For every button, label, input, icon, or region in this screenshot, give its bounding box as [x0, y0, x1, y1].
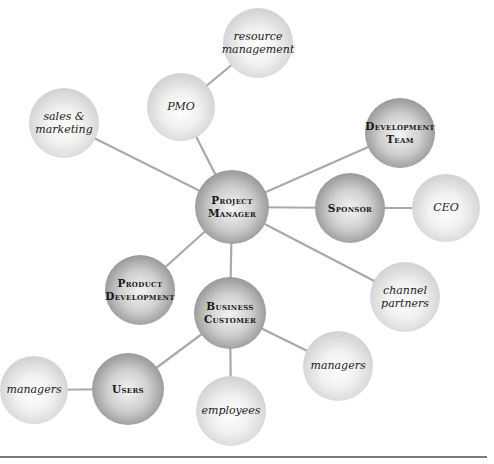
node-label: DevelopmentTeam	[365, 120, 434, 145]
node-label-line: marketing	[35, 123, 93, 136]
node-label-line: Business	[204, 300, 256, 313]
node-label: ProductDevelopment	[105, 277, 174, 302]
node-label-line: managers	[6, 383, 61, 396]
node-label: managers	[6, 383, 61, 396]
node-label-line: channel	[381, 284, 429, 297]
node-label: Sponsor	[328, 202, 372, 215]
bottom-divider	[0, 456, 487, 458]
stakeholder-diagram: ProjectManagerDevelopmentTeamSponsorCEOr…	[0, 0, 494, 464]
node-label-line: Manager	[208, 207, 256, 220]
node-label: ProjectManager	[208, 194, 256, 219]
node-label: resourcemanagement	[222, 30, 295, 56]
node-label: BusinessCustomer	[204, 300, 256, 325]
node-channel-partners: channelpartners	[370, 262, 440, 332]
node-label-line: Customer	[204, 313, 256, 326]
node-label: sales &marketing	[35, 110, 93, 136]
node-product-development: ProductDevelopment	[105, 255, 175, 325]
node-managers-left: managers	[0, 356, 68, 424]
node-label-line: resource	[222, 30, 295, 43]
node-label-line: managers	[310, 359, 365, 372]
node-label: CEO	[433, 201, 458, 214]
node-label-line: Development	[105, 290, 174, 303]
node-employees: employees	[196, 376, 266, 446]
node-label-line: Product	[105, 277, 174, 290]
node-users: Users	[92, 353, 164, 425]
node-label: channelpartners	[381, 284, 429, 310]
node-development-team: DevelopmentTeam	[365, 98, 435, 168]
node-label-line: employees	[201, 404, 260, 417]
node-label-line: PMO	[167, 100, 195, 113]
node-label-line: Development	[365, 120, 434, 133]
node-label: Users	[112, 383, 144, 396]
node-resource-management: resourcemanagement	[223, 8, 293, 78]
node-label-line: CEO	[433, 201, 458, 214]
node-pmo: PMO	[147, 73, 215, 141]
node-business-customer: BusinessCustomer	[194, 277, 266, 349]
node-label-line: Team	[365, 133, 434, 146]
node-label-line: sales &	[35, 110, 93, 123]
node-project-manager: ProjectManager	[195, 170, 269, 244]
node-label-line: partners	[381, 297, 429, 310]
node-sponsor: Sponsor	[315, 173, 385, 243]
node-label-line: Users	[112, 383, 144, 396]
node-label-line: Project	[208, 194, 256, 207]
node-label-line: Sponsor	[328, 202, 372, 215]
node-managers-right: managers	[303, 331, 373, 401]
node-ceo: CEO	[412, 174, 480, 242]
node-label: managers	[310, 359, 365, 372]
node-label-line: management	[222, 43, 295, 56]
node-sales-marketing: sales &marketing	[29, 88, 99, 158]
node-label: PMO	[167, 100, 195, 113]
node-label: employees	[201, 404, 260, 417]
